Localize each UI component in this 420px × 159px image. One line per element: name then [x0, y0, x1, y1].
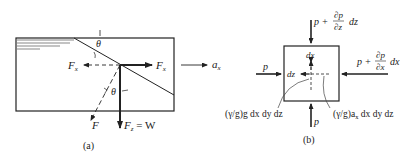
pressure-right-den: ∂x — [376, 62, 384, 72]
caption-b: (b) — [303, 134, 315, 146]
force-fx-right-label: Fx — [155, 59, 167, 73]
right-angle-mark — [104, 88, 107, 93]
angle-label-mid: θ — [111, 86, 116, 97]
angle-arc-top — [94, 52, 95, 58]
pressure-right-p: p + — [356, 56, 371, 67]
pressure-top-p: p + — [313, 16, 328, 27]
figure-a: θ Fx Fx Fz = W F θ ax (a) — [16, 30, 222, 152]
pressure-bottom-p: p — [313, 116, 319, 127]
weight-label: (γ/g)g dx dy dz — [225, 109, 283, 120]
pressure-top-d: dz — [349, 16, 358, 27]
accel-label: ax — [212, 58, 222, 72]
inertia-label: (γ/g)ax dx dy dz — [333, 109, 393, 120]
pressure-left-p: p — [262, 61, 268, 72]
angle-label-top: θ — [96, 38, 101, 49]
free-surface-hatching — [17, 40, 74, 49]
force-fz-label: Fz = W — [123, 119, 156, 133]
pressure-top-den: ∂z — [334, 22, 342, 32]
leader-inertia — [323, 76, 330, 108]
inner-dx-label: dx — [306, 50, 315, 60]
inner-dz-label: dz — [287, 69, 296, 79]
pressure-right-num: ∂p — [376, 50, 385, 60]
pressure-top-num: ∂p — [334, 10, 343, 20]
diagram-canvas: θ Fx Fx Fz = W F θ ax (a) p + ∂p ∂z dz — [0, 0, 420, 159]
force-fx-left-label: Fx — [67, 59, 79, 73]
caption-a: (a) — [83, 140, 94, 152]
pressure-right-d: dx — [390, 56, 400, 67]
leader-weight — [278, 79, 309, 108]
force-resultant-label: F — [91, 119, 99, 131]
theta-tick-mid — [122, 90, 128, 91]
figure-b: p + ∂p ∂z dz p + ∂p ∂x dx p p dx dz (γ/g… — [225, 10, 400, 146]
